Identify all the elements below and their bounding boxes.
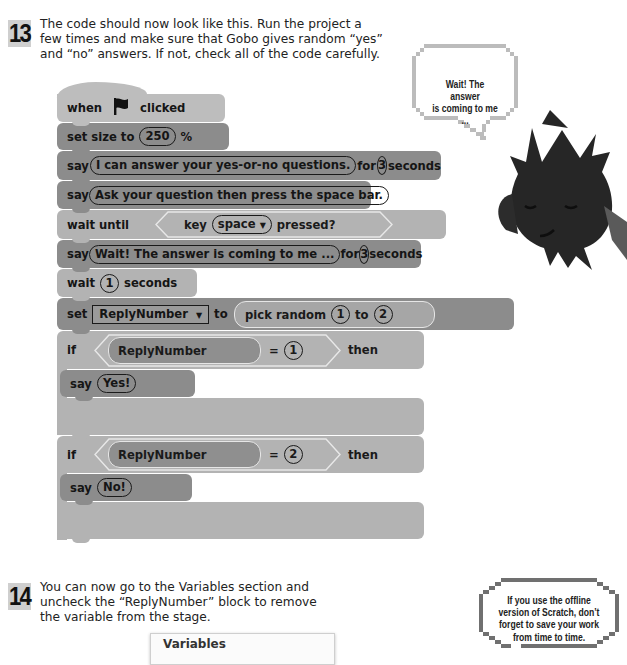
message-input[interactable]: Yes!: [97, 374, 136, 393]
set-size-block[interactable]: set size to 250 %: [57, 123, 229, 150]
green-flag-icon: [112, 97, 130, 115]
key-value: space: [218, 217, 256, 231]
compare-value-input[interactable]: 1: [284, 341, 303, 360]
say-label: say: [67, 247, 89, 261]
when-label: when: [67, 101, 102, 115]
block-notch: [72, 329, 90, 334]
if-label: if: [67, 343, 76, 357]
variable-reporter[interactable]: ReplyNumber: [108, 337, 261, 364]
speech-bubble-text: Wait! The answer is coming to me ...: [432, 78, 498, 126]
equals-label: =: [269, 344, 279, 358]
step-14-instructions: You can now go to the Variables section …: [40, 580, 370, 625]
to-label: to: [355, 308, 369, 322]
block-notch: [72, 121, 90, 126]
key-label: key: [184, 218, 207, 232]
step-14-line: You can now go to the Variables section …: [40, 580, 370, 595]
step-number-badge: 13: [8, 20, 31, 47]
then-text: then: [348, 343, 378, 357]
tip-line: from time to time.: [497, 631, 602, 643]
block-notch: [72, 149, 90, 154]
for-label: for: [357, 159, 376, 173]
message-input[interactable]: Ask your question then press the space b…: [89, 186, 389, 205]
message-input[interactable]: Wait! The answer is coming to me ...: [89, 245, 341, 264]
for-label: for: [340, 247, 359, 261]
step-13-line: few times and make sure that Gobo gives …: [40, 32, 400, 47]
message-input[interactable]: I can answer your yes-or-no questions.: [90, 156, 356, 175]
variable-name: ReplyNumber: [118, 448, 207, 462]
percent-label: %: [181, 130, 193, 144]
to-label: to: [214, 307, 228, 321]
compare-value-input[interactable]: 2: [284, 445, 303, 464]
gobo-sprite: [492, 110, 627, 270]
tip-line: version of Scratch, don’t: [497, 606, 602, 618]
if-footer: [57, 398, 424, 435]
block-notch: [72, 267, 90, 272]
key-pressed-sensing[interactable]: key space ▼ pressed?: [184, 211, 335, 238]
then-label: then: [348, 331, 378, 369]
say-label: say: [70, 377, 92, 391]
if-footer: [57, 502, 424, 539]
if-label: if: [67, 448, 76, 462]
pressed-label: pressed?: [277, 218, 336, 232]
say-no-block[interactable]: say No!: [60, 474, 192, 501]
block-notch: [72, 238, 90, 243]
dropdown-arrow-icon: ▼: [260, 221, 266, 230]
variables-panel-title: Variables: [163, 637, 226, 651]
pick-random-label: pick random: [245, 308, 326, 322]
then-label: then: [348, 436, 378, 473]
variable-dropdown[interactable]: ReplyNumber ▼: [92, 305, 209, 324]
say-for-secs-block[interactable]: say I can answer your yes-or-no question…: [57, 151, 441, 180]
random-max-input[interactable]: 2: [374, 305, 393, 324]
size-input[interactable]: 250: [139, 127, 175, 146]
say-label: say: [70, 481, 92, 495]
random-min-input[interactable]: 1: [331, 305, 350, 324]
equals-label: =: [269, 448, 279, 462]
seconds-label: seconds: [369, 247, 422, 261]
equals-operator: = 2: [269, 441, 303, 468]
step-14-line: the variable from the stage.: [40, 610, 370, 625]
then-text: then: [348, 448, 378, 462]
bubble-line: Wait! The answer: [432, 78, 498, 102]
seconds-input[interactable]: 3: [377, 156, 387, 175]
seconds-input[interactable]: 3: [359, 245, 369, 264]
say-block[interactable]: say Ask your question then press the spa…: [57, 181, 371, 209]
wait-until-label: wait until: [67, 218, 129, 232]
step-13-line: The code should now look like this. Run …: [40, 17, 400, 32]
message-input[interactable]: No!: [97, 478, 132, 497]
block-notch: [72, 179, 90, 184]
pick-random-reporter[interactable]: pick random 1 to 2: [234, 301, 435, 328]
variable-reporter[interactable]: ReplyNumber: [108, 441, 261, 468]
dropdown-arrow-icon: ▼: [196, 311, 202, 320]
set-label: set: [67, 307, 87, 321]
wait-seconds-block[interactable]: wait 1 seconds: [57, 269, 197, 297]
block-notch: [72, 538, 90, 543]
set-size-label: set size to: [67, 130, 134, 144]
say-label: say: [67, 188, 89, 202]
variables-panel[interactable]: Variables: [150, 633, 335, 665]
when-flag-clicked-block[interactable]: when clicked: [57, 94, 225, 122]
bubble-line: is coming to me ...: [432, 102, 498, 126]
tip-line: If you use the offline: [497, 594, 602, 606]
tip-line: forget to save your work: [497, 618, 602, 630]
step-number-badge: 14: [8, 583, 31, 610]
wait-label: wait: [67, 276, 95, 290]
block-notch: [72, 296, 90, 301]
wait-seconds-input[interactable]: 1: [100, 274, 119, 293]
clicked-label: clicked: [140, 101, 185, 115]
tip-text: If you use the offline version of Scratc…: [497, 594, 602, 643]
say-yes-block[interactable]: say Yes!: [60, 370, 195, 397]
step-13-line: and “no” answers. If not, check all of t…: [40, 47, 400, 62]
say-label: say: [67, 159, 89, 173]
block-notch: [72, 208, 90, 213]
key-dropdown[interactable]: space ▼: [212, 215, 272, 234]
variable-name: ReplyNumber: [118, 344, 207, 358]
variable-name: ReplyNumber: [99, 307, 188, 321]
equals-operator: = 1: [269, 337, 303, 364]
block-notch: [75, 500, 93, 505]
seconds-label: seconds: [124, 276, 177, 290]
say-for-secs-block[interactable]: say Wait! The answer is coming to me ...…: [57, 240, 421, 268]
step-13-instructions: The code should now look like this. Run …: [40, 17, 400, 62]
seconds-label: seconds: [388, 159, 441, 173]
step-14-line: uncheck the “ReplyNumber” block to remov…: [40, 595, 370, 610]
block-notch: [72, 434, 90, 439]
